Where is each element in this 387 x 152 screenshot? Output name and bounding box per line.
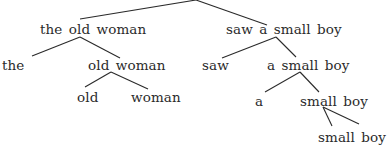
node-woman: woman <box>131 90 181 104</box>
edge-the-old-woman-to-the <box>32 37 80 56</box>
edge-a-small-boy-to-small-boy <box>300 72 319 92</box>
node-old-woman: old woman <box>88 58 166 72</box>
edge-saw-a-small-boy-to-a-small-boy <box>276 37 296 57</box>
node-the-old-woman: the old woman <box>40 22 146 36</box>
node-a-small-boy: a small boy <box>267 58 350 72</box>
node-old: old <box>77 90 98 104</box>
edge-root-to-the-old-woman <box>80 0 196 19</box>
node-a: a <box>255 94 263 108</box>
node-saw: saw <box>202 58 229 72</box>
syntax-tree-diagram: the old woman the old woman old woman sa… <box>0 0 387 152</box>
node-the: the <box>2 58 24 72</box>
node-small-boy: small boy <box>300 94 368 108</box>
edge-old-woman-to-old <box>85 72 111 87</box>
node-saw-a-small-boy: saw a small boy <box>226 22 342 36</box>
edge-the-old-woman-to-old-woman <box>80 37 120 58</box>
edge-old-woman-to-woman <box>111 72 148 89</box>
edge-saw-a-small-boy-to-saw <box>222 37 276 58</box>
edge-small-boy-to-small <box>323 107 332 126</box>
edge-a-small-boy-to-a <box>265 72 300 92</box>
edge-small-boy-to-boy <box>323 107 359 124</box>
node-small-boy-leaf: small boy <box>318 130 386 144</box>
